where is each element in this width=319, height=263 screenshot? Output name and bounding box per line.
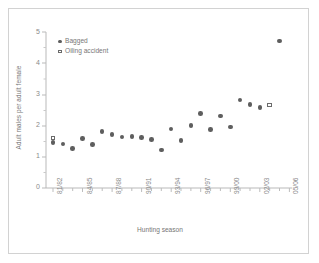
data-point <box>100 129 105 134</box>
data-point <box>179 138 184 143</box>
x-axis-title: Hunting season <box>60 226 260 233</box>
data-point <box>80 136 85 141</box>
x-tick-label: 81/82 <box>56 177 63 194</box>
x-tick-label: 02/03 <box>263 177 270 194</box>
data-point <box>70 146 75 151</box>
data-point <box>218 114 223 119</box>
y-tick-label: 1 <box>28 152 40 159</box>
data-point <box>159 148 164 153</box>
legend-label-bagged: Bagged <box>65 37 88 44</box>
data-point-oiling <box>51 136 55 140</box>
y-tick-label: 0 <box>28 183 40 190</box>
data-point <box>130 134 135 139</box>
data-point <box>248 102 253 107</box>
x-tick-label: 90/91 <box>145 177 152 194</box>
data-point <box>228 125 233 130</box>
x-tick-label: 84/85 <box>86 177 93 194</box>
legend-label-oiling-accident: Oiling accident <box>65 47 108 54</box>
y-tick-label: 2 <box>28 121 40 128</box>
data-point-oiling <box>267 103 271 107</box>
legend-marker-oiling-accident <box>58 50 62 54</box>
y-axis-title: Adult males per adult female <box>15 48 22 168</box>
data-point <box>277 39 282 44</box>
data-point <box>139 135 144 140</box>
x-tick-label: 93/94 <box>174 177 181 194</box>
scatter-chart: 5 4 3 2 1 0 Adult males per adult female… <box>0 0 319 263</box>
data-point <box>198 111 203 116</box>
chart-axes <box>0 0 319 263</box>
x-tick-label: 87/88 <box>115 177 122 194</box>
data-point <box>90 142 95 147</box>
x-tick-label: 05/06 <box>292 177 299 194</box>
y-tick-label: 5 <box>28 28 40 35</box>
data-point <box>258 105 263 110</box>
legend-marker-bagged <box>58 40 62 44</box>
data-point <box>208 127 213 132</box>
data-point <box>149 137 154 142</box>
x-tick-label: 99/00 <box>233 177 240 194</box>
y-tick-label: 4 <box>28 59 40 66</box>
x-tick-label: 96/97 <box>204 177 211 194</box>
y-tick-label: 3 <box>28 90 40 97</box>
data-point <box>110 132 115 137</box>
data-point <box>189 123 194 128</box>
